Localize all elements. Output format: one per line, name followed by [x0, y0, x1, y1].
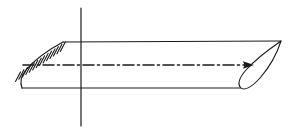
figure-root	[0, 0, 294, 134]
figure-background	[0, 0, 294, 134]
wing-schematic-svg	[0, 0, 294, 134]
